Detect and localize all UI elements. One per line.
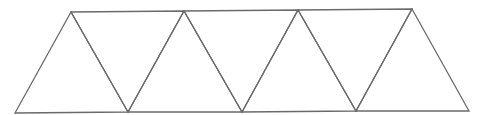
triangle-up-4	[356, 9, 469, 111]
triangle-up-1	[15, 12, 128, 113]
triangle-down-2	[184, 10, 298, 112]
triangle-strip-diagram	[0, 0, 492, 115]
triangle-up-3	[242, 10, 356, 112]
triangle-down-1	[71, 11, 184, 112]
triangle-edges	[15, 9, 469, 113]
triangle-up-2	[128, 11, 242, 112]
triangle-down-3	[298, 9, 412, 111]
diagram-svg	[0, 0, 492, 115]
